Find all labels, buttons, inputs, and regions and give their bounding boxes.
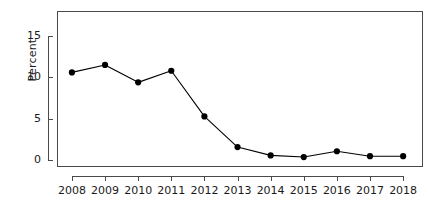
data-point <box>102 62 108 68</box>
data-point <box>234 144 240 150</box>
data-series-layer <box>0 0 429 200</box>
data-point <box>135 79 141 85</box>
data-point <box>168 68 174 74</box>
series-markers-percent <box>69 62 406 160</box>
data-point <box>400 153 406 159</box>
data-point <box>334 148 340 154</box>
data-point <box>367 153 373 159</box>
chart-figure: Percent 051015 2008200920102011201220132… <box>0 0 429 200</box>
data-point <box>69 69 75 75</box>
data-point <box>201 113 207 119</box>
data-point <box>268 152 274 158</box>
data-point <box>301 154 307 160</box>
series-line-percent <box>72 65 403 157</box>
